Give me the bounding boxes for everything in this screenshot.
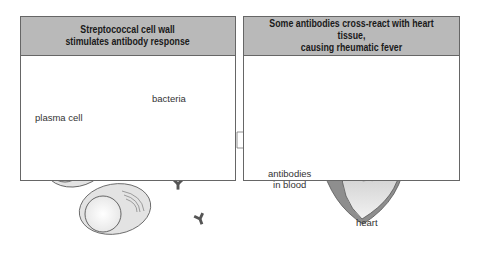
panel-right-title: Some antibodies cross-react with heart t… xyxy=(257,18,446,54)
label-antibodies-in-blood: antibodies in blood xyxy=(268,168,311,190)
panel-left: Streptococcal cell wall stimulates antib… xyxy=(20,16,236,181)
plasma-cell-2 xyxy=(75,178,155,240)
label-plasma-cell: plasma cell xyxy=(35,112,83,123)
label-bacteria: bacteria xyxy=(152,93,186,104)
panel-right: Some antibodies cross-react with heart t… xyxy=(243,16,460,181)
label-heart: heart xyxy=(356,217,378,228)
panel-left-header: Streptococcal cell wall stimulates antib… xyxy=(21,17,235,56)
panel-right-header: Some antibodies cross-react with heart t… xyxy=(244,17,459,56)
panel-left-title: Streptococcal cell wall stimulates antib… xyxy=(66,24,190,48)
